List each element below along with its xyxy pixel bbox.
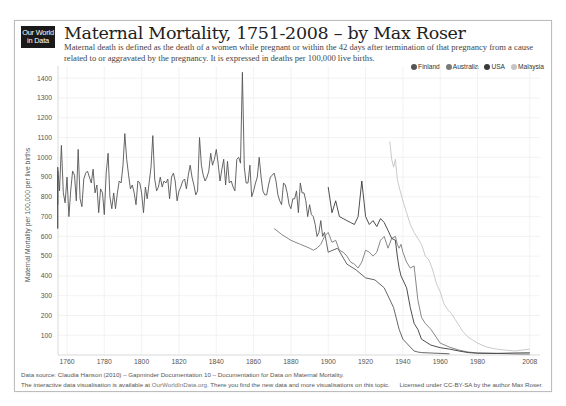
- x-tick-label: 1760: [59, 358, 74, 365]
- interactive-suffix: . There you find the new data and more v…: [207, 381, 390, 388]
- x-tick-label: 1940: [395, 358, 410, 365]
- y-tick-label: 800: [41, 193, 53, 200]
- y-tick-label: 700: [41, 213, 53, 220]
- y-tick-label: 300: [41, 292, 53, 299]
- y-tick-label: 1200: [37, 114, 52, 121]
- x-tick-label: 1860: [246, 358, 261, 365]
- x-tick-label: 1840: [209, 358, 224, 365]
- y-axis-ticks: 1002003004005006007008009001000110012001…: [37, 75, 52, 339]
- x-tick-label: 1800: [134, 358, 149, 365]
- x-tick-label: 1880: [283, 358, 298, 365]
- series-lines: [58, 72, 530, 354]
- x-tick-label: 1780: [97, 358, 112, 365]
- y-tick-label: 100: [41, 332, 53, 339]
- y-tick-label: 900: [41, 173, 53, 180]
- y-tick-label: 500: [41, 252, 53, 259]
- license-note: Licensed under CC-BY-SA by the author Ma…: [399, 381, 543, 388]
- data-source: Data source: Claudia Hanson (2010) – Gap…: [21, 371, 344, 378]
- x-axis-ticks: 1760178018001820184018601880190019201940…: [59, 358, 537, 365]
- line-chart: 1002003004005006007008009001000110012001…: [0, 0, 566, 406]
- series-line-malaysia[interactable]: [390, 142, 530, 352]
- y-tick-label: 1000: [37, 154, 52, 161]
- x-tick-label: 1960: [433, 358, 448, 365]
- x-tick-label: 1980: [470, 358, 485, 365]
- owid-link[interactable]: OurWorldInData.org: [152, 381, 207, 388]
- interactive-prefix: The interactive data visualisation is av…: [21, 381, 152, 388]
- gridlines: [58, 66, 540, 355]
- y-tick-label: 1100: [37, 134, 52, 141]
- x-tick-label: 2008: [522, 358, 537, 365]
- interactive-note: The interactive data visualisation is av…: [21, 381, 390, 388]
- x-tick-label: 1900: [321, 358, 336, 365]
- x-tick-label: 1820: [171, 358, 186, 365]
- y-tick-label: 600: [41, 233, 53, 240]
- y-tick-label: 200: [41, 312, 53, 319]
- y-tick-label: 1400: [37, 75, 52, 82]
- y-tick-label: 1300: [37, 94, 52, 101]
- y-tick-label: 400: [41, 272, 53, 279]
- x-tick-label: 1920: [358, 358, 373, 365]
